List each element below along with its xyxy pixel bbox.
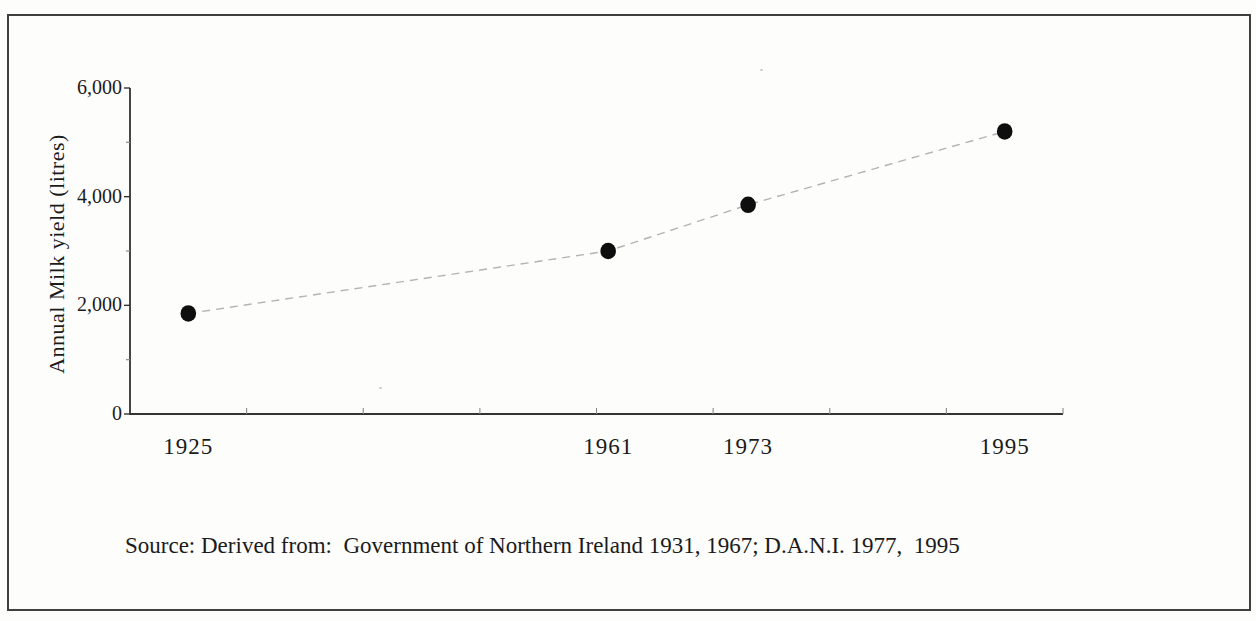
scan-speckle xyxy=(379,387,382,389)
x-tick-label: 1925 xyxy=(163,434,213,460)
data-point xyxy=(600,243,616,260)
y-tick-label: 2,000 xyxy=(28,293,122,316)
x-tick-label: 1973 xyxy=(723,434,773,460)
data-point xyxy=(181,305,197,322)
y-tick-label: 6,000 xyxy=(28,76,122,99)
y-tick-label: 4,000 xyxy=(28,185,122,208)
scanned-figure-page: Annual Milk yield (litres) 02,0004,0006,… xyxy=(0,0,1256,621)
x-tick-label: 1961 xyxy=(583,434,633,460)
source-note: Source: Derived from: Government of Nort… xyxy=(125,533,960,559)
y-tick-label: 0 xyxy=(28,402,122,425)
data-point xyxy=(997,123,1013,140)
y-axis-title: Annual Milk yield (litres) xyxy=(44,134,70,374)
data-point xyxy=(740,197,756,214)
scan-speckle xyxy=(760,69,763,71)
milk-yield-chart xyxy=(0,0,1256,621)
x-tick-label: 1995 xyxy=(980,434,1030,460)
